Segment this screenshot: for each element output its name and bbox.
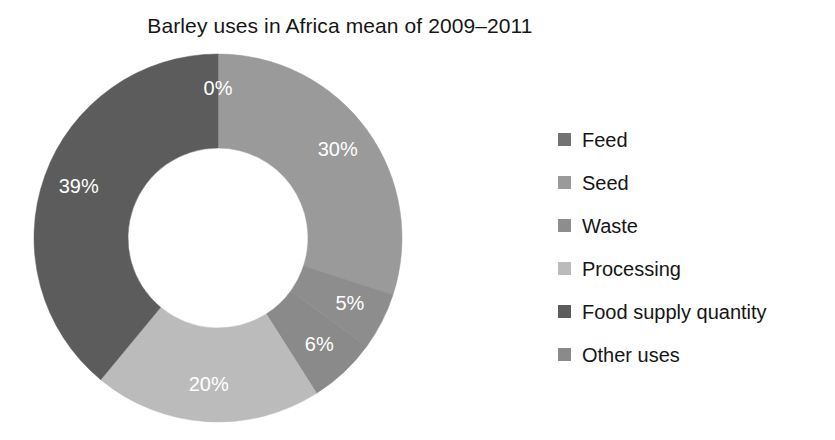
- legend-swatch-icon: [558, 262, 571, 275]
- legend-item[interactable]: Feed: [558, 118, 833, 161]
- legend-item-label: Processing: [582, 259, 681, 279]
- legend-item-label: Waste: [582, 216, 638, 236]
- legend-item[interactable]: Other uses: [558, 333, 833, 376]
- slice-value-label: 30%: [318, 138, 358, 160]
- legend-item-label: Other uses: [582, 345, 680, 365]
- donut-slices: [34, 54, 402, 422]
- legend-item-label: Feed: [582, 130, 628, 150]
- legend-swatch-icon: [558, 219, 571, 232]
- slice-value-label: 6%: [305, 333, 334, 355]
- legend-swatch-icon: [558, 133, 571, 146]
- donut-chart-area: 0%30%5%6%20%39%: [0, 0, 470, 440]
- slice-value-label: 5%: [335, 292, 364, 314]
- legend-item-label: Seed: [582, 173, 629, 193]
- legend-item[interactable]: Seed: [558, 161, 833, 204]
- donut-slice: [218, 54, 402, 295]
- slice-value-label: 39%: [59, 175, 99, 197]
- legend-item-label: Food supply quantity: [582, 302, 767, 322]
- legend-swatch-icon: [558, 348, 571, 361]
- legend-item[interactable]: Food supply quantity: [558, 290, 833, 333]
- donut-chart-svg: 0%30%5%6%20%39%: [0, 0, 470, 440]
- chart-figure: Barley uses in Africa mean of 2009–2011 …: [0, 0, 835, 440]
- legend-swatch-icon: [558, 176, 571, 189]
- slice-value-label: 0%: [204, 77, 233, 99]
- legend-item[interactable]: Processing: [558, 247, 833, 290]
- slice-value-label: 20%: [189, 373, 229, 395]
- legend-item[interactable]: Waste: [558, 204, 833, 247]
- legend-swatch-icon: [558, 305, 571, 318]
- chart-legend: FeedSeedWasteProcessingFood supply quant…: [558, 118, 833, 376]
